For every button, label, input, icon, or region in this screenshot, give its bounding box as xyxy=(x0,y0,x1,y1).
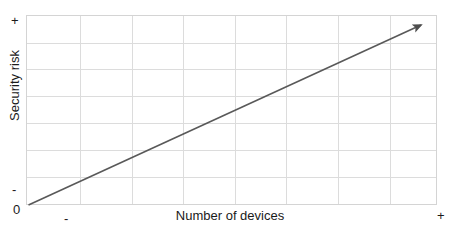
gridline-vertical xyxy=(80,16,81,204)
gridline-vertical xyxy=(390,16,391,204)
chart-figure: Security risk Number of devices + - 0 - … xyxy=(0,0,456,235)
y-axis-max-marker: + xyxy=(11,14,19,27)
gridline-vertical xyxy=(286,16,287,204)
gridline-horizontal xyxy=(27,69,436,70)
gridline-horizontal xyxy=(27,96,436,97)
gridline-vertical xyxy=(183,16,184,204)
gridline-vertical xyxy=(338,16,339,204)
x-axis-title: Number of devices xyxy=(110,208,350,223)
gridline-horizontal xyxy=(27,177,436,178)
y-axis-title: Security risk xyxy=(7,26,22,146)
origin-label: 0 xyxy=(13,203,20,216)
plot-area xyxy=(26,15,437,205)
gridline-horizontal xyxy=(27,123,436,124)
gridline-horizontal xyxy=(27,150,436,151)
y-axis-min-marker: - xyxy=(12,183,16,196)
gridline-vertical xyxy=(132,16,133,204)
gridline-horizontal xyxy=(27,43,436,44)
x-axis-min-marker: - xyxy=(64,212,68,225)
gridline-vertical xyxy=(235,16,236,204)
x-axis-max-marker: + xyxy=(437,209,445,222)
